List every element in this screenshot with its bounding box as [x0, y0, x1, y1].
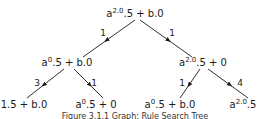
tree-edge	[169, 40, 192, 57]
node-rest: 1.5 + b.0	[1, 99, 48, 110]
search-tree-diagram: a2.0.5 + b.0 a0.5 + b.0 a2.0.5 + 0 1.5 +…	[0, 0, 270, 119]
figure-caption: Figure 3.1.1 Graph: Rule Search Tree	[62, 112, 208, 119]
edge-weight-label: 1	[169, 28, 175, 38]
tree-node-root: a2.0.5 + b.0	[106, 8, 163, 19]
tree-leaf: 1.5 + b.0	[1, 99, 48, 110]
tree-edge-arrow	[44, 69, 64, 85]
tree-leaf: a0.5 + b.0	[145, 99, 196, 110]
edge-weight-label: 1	[100, 28, 106, 38]
tree-node-left: a0.5 + b.0	[42, 57, 93, 68]
tree-node-right: a2.0.5 + 0	[179, 57, 227, 68]
node-rest: .5 + 0	[196, 57, 227, 68]
tree-leaf: a2.0.5	[230, 99, 257, 110]
node-rest: .5 + b.0	[52, 57, 92, 68]
node-rest: .5 + b.0	[124, 8, 164, 19]
tree-edge-arrow	[140, 20, 169, 40]
node-rest: .5 + b.0	[155, 99, 195, 110]
node-exponent: 2.0	[112, 7, 123, 15]
edge-weight-label: 4	[237, 78, 243, 88]
node-rest: .5	[247, 99, 257, 110]
node-exponent: 2.0	[185, 56, 196, 64]
node-rest: .5 + 0	[86, 99, 117, 110]
tree-edge-arrow	[208, 69, 230, 85]
tree-edge	[83, 40, 106, 57]
tree-edge-arrow	[74, 69, 90, 85]
tree-leaf: a0.5 + 0	[75, 99, 116, 110]
tree-edge-arrow	[106, 20, 135, 40]
edge-weight-label: 1	[91, 78, 97, 88]
edge-weight-label: 3	[34, 78, 40, 88]
edge-weight-label: 1	[179, 78, 185, 88]
node-exponent: 2.0	[236, 98, 247, 106]
tree-edge-arrow	[189, 69, 200, 85]
